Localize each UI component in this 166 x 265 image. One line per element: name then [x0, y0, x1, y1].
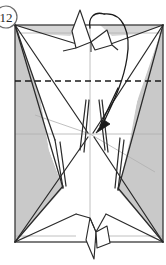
- origami-illustration: 12: [0, 0, 166, 265]
- step-number-label: 12: [0, 10, 13, 25]
- origami-diagram-figure: 12: [0, 0, 166, 265]
